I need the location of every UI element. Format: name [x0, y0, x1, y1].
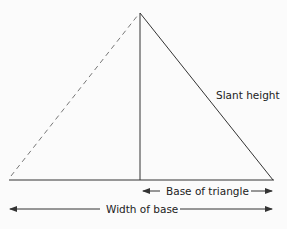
width-of-base-label: Width of base — [104, 203, 180, 215]
hidden-left-edge — [11, 15, 138, 176]
base-of-triangle-label: Base of triangle — [164, 185, 251, 197]
pyramid-diagram: Slant height Base of triangle Width of b… — [0, 0, 287, 229]
slant-height-label: Slant height — [214, 89, 282, 101]
